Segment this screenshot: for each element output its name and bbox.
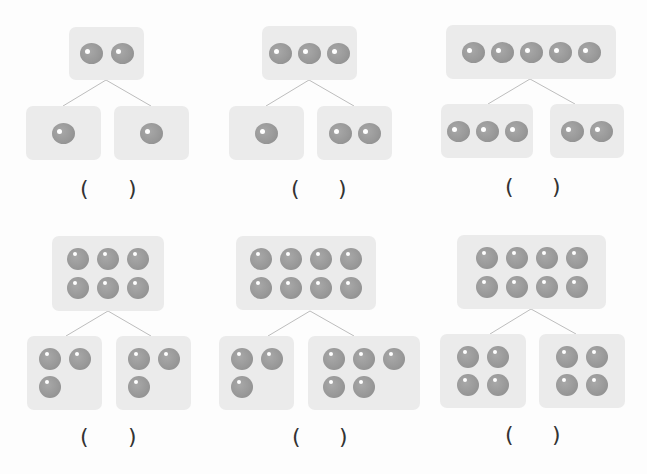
problem-5-top-box [236,236,376,310]
problem-1-top-box [69,27,144,80]
counter-dot-icon [462,42,485,63]
counter-dot-icon [39,348,61,370]
answer-close-paren: ) [338,176,347,201]
counter-dot-icon [556,346,578,368]
counter-dot-icon [536,247,558,269]
counter-dot-icon [127,248,149,270]
problem-4-right-box [116,336,191,410]
counter-dot-icon [358,123,381,144]
counter-dot-icon [250,277,272,299]
counter-dot-icon [298,43,321,64]
answer-open-paren: ( [292,424,301,449]
counter-dot-icon [329,123,352,144]
counter-dot-icon [457,374,479,396]
problem-6-right-box [539,334,625,408]
counter-dot-icon [39,376,61,398]
answer-close-paren: ) [128,176,137,201]
counter-dot-icon [158,348,180,370]
counter-dot-icon [487,374,509,396]
problem-3-top-box [446,25,616,79]
counter-dot-icon [340,248,362,270]
counter-dot-icon [578,42,601,63]
counter-dot-icon [127,277,149,299]
counter-dot-icon [310,277,332,299]
counter-dot-icon [261,348,283,370]
problem-4-top-box [52,236,164,311]
answer-open-paren: ( [291,176,300,201]
counter-dot-icon [323,348,345,370]
counter-dot-icon [255,123,278,144]
counter-dot-icon [353,376,375,398]
counter-dot-icon [280,277,302,299]
answer-open-paren: ( [80,176,89,201]
counter-dot-icon [269,43,292,64]
problem-4-left-box [27,336,102,410]
counter-dot-icon [383,348,405,370]
counter-dot-icon [549,42,572,63]
counter-dot-icon [457,346,479,368]
counter-dot-icon [67,248,89,270]
answer-close-paren: ) [552,422,561,447]
counter-dot-icon [476,121,499,142]
counter-dot-icon [447,121,470,142]
answer-open-paren: ( [80,424,89,449]
problem-1-left-box [26,106,101,160]
answer-open-paren: ( [505,174,514,199]
counter-dot-icon [556,374,578,396]
counter-dot-icon [327,43,350,64]
problem-2-left-box [229,106,304,160]
problem-6-top-box [457,235,606,309]
problem-5-right-box [308,336,420,410]
counter-dot-icon [476,247,498,269]
counter-dot-icon [250,248,272,270]
counter-dot-icon [280,248,302,270]
counter-dot-icon [80,43,103,64]
counter-dot-icon [536,276,558,298]
counter-dot-icon [52,123,75,144]
problem-1-right-box [114,106,189,160]
answer-open-paren: ( [505,422,514,447]
counter-dot-icon [231,348,253,370]
problem-2-right-box [317,106,392,160]
counter-dot-icon [67,277,89,299]
counter-dot-icon [476,276,498,298]
counter-dot-icon [310,248,332,270]
counter-dot-icon [505,121,528,142]
problem-3-left-box [441,104,533,158]
counter-dot-icon [586,346,608,368]
counter-dot-icon [506,247,528,269]
problem-3-right-box [550,104,624,158]
counter-dot-icon [353,348,375,370]
counter-dot-icon [520,42,543,63]
problem-5-left-box [219,336,294,410]
counter-dot-icon [97,248,119,270]
counter-dot-icon [128,348,150,370]
counter-dot-icon [561,121,584,142]
counter-dot-icon [140,123,163,144]
counter-dot-icon [231,376,253,398]
counter-dot-icon [586,374,608,396]
counter-dot-icon [97,277,119,299]
counter-dot-icon [491,42,514,63]
counter-dot-icon [323,376,345,398]
answer-close-paren: ) [339,424,348,449]
counter-dot-icon [487,346,509,368]
counter-dot-icon [566,247,588,269]
problem-2-top-box [262,26,357,80]
counter-dot-icon [340,277,362,299]
counter-dot-icon [69,348,91,370]
answer-close-paren: ) [552,174,561,199]
counter-dot-icon [128,376,150,398]
answer-close-paren: ) [128,424,137,449]
counter-dot-icon [506,276,528,298]
counter-dot-icon [111,43,134,64]
problem-6-left-box [440,334,526,408]
counter-dot-icon [566,276,588,298]
counter-dot-icon [590,121,613,142]
